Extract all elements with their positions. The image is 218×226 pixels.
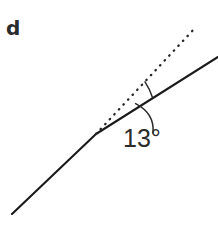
panel-label-d: d [6, 18, 20, 38]
angle-arc-small [145, 82, 152, 97]
solid-polyline [12, 57, 218, 214]
angle-diagram-svg [0, 0, 218, 226]
figure-panel-d: d 13° [0, 0, 218, 226]
angle-value-label: 13° [123, 126, 161, 151]
